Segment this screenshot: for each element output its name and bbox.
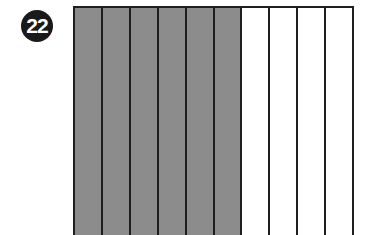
unshaded-column — [242, 8, 270, 235]
shaded-column — [215, 8, 243, 235]
unshaded-column — [298, 8, 326, 235]
shaded-column — [75, 8, 103, 235]
shaded-column — [131, 8, 159, 235]
unshaded-column — [270, 8, 298, 235]
shaded-column — [103, 8, 131, 235]
problem-number-badge: 22 — [21, 10, 53, 42]
shaded-column — [187, 8, 215, 235]
unshaded-column — [326, 8, 352, 235]
shaded-column — [159, 8, 187, 235]
fraction-grid — [73, 6, 354, 235]
